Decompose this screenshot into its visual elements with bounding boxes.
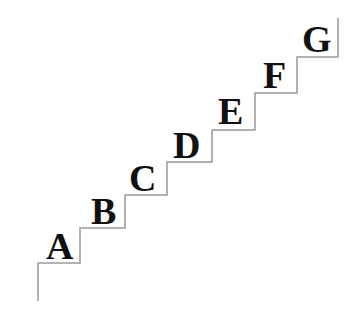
step-label-c: C bbox=[129, 159, 156, 197]
step-label-f: F bbox=[263, 56, 286, 94]
step-label-g: G bbox=[302, 20, 332, 58]
step-label-b: B bbox=[91, 192, 116, 230]
step-label-a: A bbox=[46, 227, 73, 265]
step-label-e: E bbox=[218, 92, 243, 130]
step-label-d: D bbox=[173, 126, 200, 164]
staircase-diagram: A B C D E F G bbox=[0, 0, 356, 318]
